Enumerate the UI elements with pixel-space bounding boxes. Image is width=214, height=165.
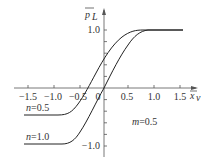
annotation-n-1.0: n=1.0 — [26, 131, 49, 142]
y-tick-label: −1.0 — [82, 140, 100, 151]
chart: −1.5 −1.0 −0.5 0 0.5 1.0 1.5 1.0 −1.0 p … — [0, 0, 214, 165]
x-tick-label: 1.0 — [148, 91, 161, 102]
svg-text:L: L — [91, 11, 98, 22]
x-axis-label: x v — [189, 90, 201, 103]
svg-text:v: v — [196, 92, 201, 103]
x-tick-label: −1.5 — [19, 91, 37, 102]
x-tick-label: 1.5 — [174, 91, 187, 102]
y-axis-label: p L — [84, 8, 98, 22]
x-tick-label: −0.5 — [69, 91, 87, 102]
x-tick-label: −1.0 — [44, 91, 62, 102]
svg-text:x: x — [189, 90, 195, 101]
svg-text:p: p — [84, 9, 90, 20]
curve-n-1.0 — [24, 30, 183, 144]
annotation-m-0.5: m=0.5 — [132, 116, 157, 127]
y-tick-label: 1.0 — [88, 24, 101, 35]
x-tick-label: 0.5 — [121, 91, 134, 102]
y-axis-arrow-icon — [102, 8, 106, 15]
annotation-n-0.5: n=0.5 — [26, 102, 49, 113]
